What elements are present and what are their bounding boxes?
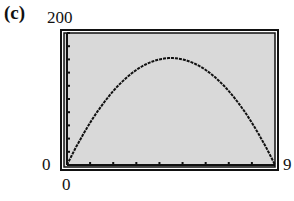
graphing-calculator-plot <box>0 0 294 201</box>
screen-area <box>64 33 275 167</box>
